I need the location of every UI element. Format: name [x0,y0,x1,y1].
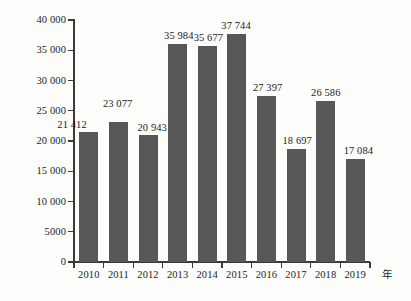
y-axis-tick [68,140,74,141]
bar-value-label: 21 412 [57,120,86,131]
y-axis-tick-label: 20 000 [37,136,66,147]
bar-value-label: 18 697 [283,136,312,147]
bar-chart: 0500010 00015 00020 00025 00030 00035 00… [0,0,411,301]
bar[interactable] [346,159,365,262]
y-axis-tick [68,110,74,111]
x-axis-tick-label: 2019 [338,270,372,281]
y-axis-tick [68,201,74,202]
bar[interactable] [287,149,306,262]
x-axis-tick-label: 2013 [161,270,195,281]
bar-value-label: 26 586 [311,88,340,99]
x-axis-tick [192,262,193,268]
x-axis-tick [281,262,282,268]
y-axis-tick [68,231,74,232]
bar[interactable] [109,122,128,262]
y-axis-tick-label: 5000 [45,227,66,238]
bar[interactable] [139,135,158,262]
y-axis-tick-label: 0 [61,257,66,268]
y-axis-tick-label: 15 000 [37,166,66,177]
x-axis-tick [369,262,370,268]
y-axis-tick-label: 30 000 [37,76,66,87]
bar[interactable] [316,101,335,262]
x-axis-tick-label: 2014 [190,270,224,281]
x-axis-tick-label: 2012 [131,270,165,281]
bar[interactable] [168,44,187,262]
y-axis-tick [68,50,74,51]
x-axis-tick [310,262,311,268]
x-axis-tick [340,262,341,268]
x-axis-tick-label: 2018 [309,270,343,281]
x-axis-tick-label: 2016 [250,270,284,281]
y-axis-tick [68,171,74,172]
x-axis-tick [251,262,252,268]
bar-value-label: 27 397 [253,83,282,94]
x-axis-tick [103,262,104,268]
bar-value-label: 35 677 [194,33,223,44]
x-axis-tick-label: 2017 [279,270,313,281]
y-axis-tick-label: 40 000 [37,15,66,26]
x-axis-tick [162,262,163,268]
x-axis-tick [221,262,222,268]
x-axis-tick-label: 2010 [72,270,106,281]
bar[interactable] [257,96,276,262]
x-axis-tick [73,262,74,268]
y-axis-tick-label: 25 000 [37,106,66,117]
x-axis-title: 年 [382,270,392,281]
bar[interactable] [227,34,246,262]
x-axis-tick-label: 2015 [220,270,254,281]
y-axis-tick [68,19,74,20]
bar[interactable] [79,132,98,262]
bar-value-label: 37 744 [221,21,250,32]
bar-value-label: 23 077 [103,99,132,110]
y-axis-tick-label: 35 000 [37,45,66,56]
bar-value-label: 20 943 [138,123,167,134]
bar[interactable] [198,46,217,262]
y-axis-tick-label: 10 000 [37,197,66,208]
x-axis-tick-label: 2011 [102,270,136,281]
x-axis-tick [133,262,134,268]
bar-value-label: 17 084 [344,146,373,157]
y-axis-tick [68,80,74,81]
bar-value-label: 35 984 [164,31,193,42]
